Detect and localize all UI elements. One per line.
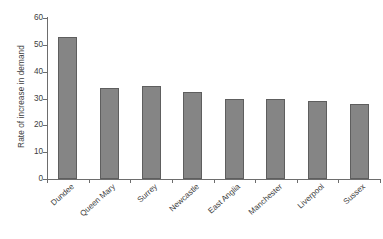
bar [183, 92, 202, 179]
bars-layer [47, 18, 380, 179]
y-axis-tick-label: 30 [34, 94, 43, 103]
y-axis-tick-label: 50 [34, 40, 43, 49]
x-axis-tick-label: Manchester [244, 182, 284, 219]
x-axis-tick-mark [214, 179, 215, 183]
x-axis-tick-mark [172, 179, 173, 183]
x-axis-tick-mark [89, 179, 90, 183]
y-axis-tick-label: 10 [34, 147, 43, 156]
x-axis-tick-label: Queen Mary [77, 182, 117, 219]
y-axis-tick-label: 0 [38, 174, 43, 183]
x-axis-tick-mark [47, 179, 48, 183]
x-axis-tick-label: Surrey [119, 182, 159, 219]
bar [350, 104, 369, 179]
x-axis-tick-mark [130, 179, 131, 183]
x-axis-tick-mark [338, 179, 339, 183]
x-axis-tick-label: Sussex [327, 182, 367, 219]
x-axis-tick-label: Dundee [36, 182, 76, 219]
bar [58, 37, 77, 179]
bar [142, 86, 161, 179]
x-axis-tick-mark [380, 179, 381, 183]
y-axis-tick-label: 20 [34, 120, 43, 129]
bar [225, 99, 244, 180]
bar-chart: Rate of increase in demand 0102030405060… [0, 0, 383, 239]
x-axis-labels: DundeeQueen MarySurreyNewcastleEast Angl… [47, 182, 380, 239]
x-axis-tick-mark [255, 179, 256, 183]
bar [100, 88, 119, 179]
y-axis-tick-label: 60 [34, 13, 43, 22]
bar [266, 99, 285, 180]
x-axis-tick-label: Newcastle [161, 182, 201, 219]
x-axis-tick-label: East Anglia [202, 182, 242, 219]
bar [308, 101, 327, 179]
y-axis-tick-label: 40 [34, 67, 43, 76]
x-axis-tick-mark [297, 179, 298, 183]
y-axis-title: Rate of increase in demand [17, 22, 26, 172]
x-axis-tick-label: Liverpool [285, 182, 325, 219]
